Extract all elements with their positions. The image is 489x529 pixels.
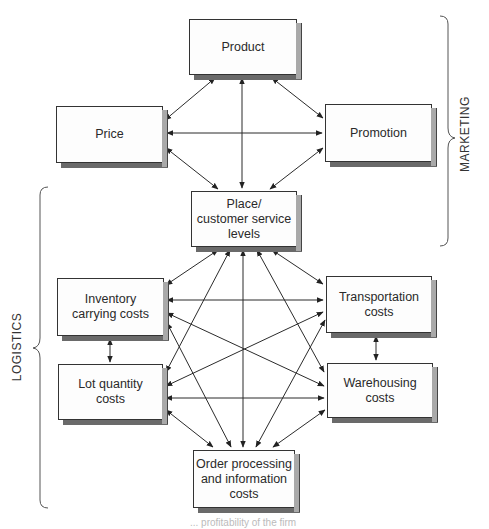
caption-fragment: ... profitability of the firm [190,517,296,528]
node-price-label: Price [95,127,123,142]
node-product: Product [189,19,297,75]
node-price: Price [56,106,163,163]
node-transportation-costs: Transportation costs [326,276,432,333]
node-lot-quantity-costs: Lot quantity costs [58,364,163,420]
node-place: Place/ customer service levels [191,191,297,247]
bracket [33,16,455,508]
node-warehousing-costs: Warehousing costs [327,363,433,418]
node-inventory-carrying-costs: Inventory carrying costs [57,278,164,336]
logistics-group-label: LOGISTICS [10,312,24,382]
node-inventory-label: Inventory carrying costs [72,292,149,322]
node-product-label: Product [221,40,264,55]
node-lot-quantity-label: Lot quantity costs [78,377,143,407]
node-order-processing-costs: Order processing and information costs [193,450,295,508]
marketing-group-label: MARKETING [458,102,472,172]
node-transportation-label: Transportation costs [339,290,419,320]
node-promotion-label: Promotion [350,126,407,141]
node-order-processing-label: Order processing and information costs [196,457,292,502]
node-warehousing-label: Warehousing costs [343,376,416,406]
node-place-label: Place/ customer service levels [197,197,291,242]
node-promotion: Promotion [325,104,432,162]
